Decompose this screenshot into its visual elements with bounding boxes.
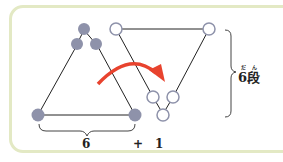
left-triangle-lines: [38, 30, 135, 115]
bottom-brace: [39, 124, 135, 136]
filled-dots: [32, 23, 142, 122]
bottom-label-right: 1: [155, 137, 163, 151]
rows-label-ruby: だん: [238, 64, 260, 70]
rows-label: 6段だん: [238, 64, 260, 86]
rows-label-text: 6段: [238, 70, 260, 85]
plus-sign: +: [133, 137, 143, 151]
arrowhead-icon: [149, 64, 165, 82]
bottom-label-left: 6: [82, 137, 90, 151]
rotate-arrow-icon: [98, 64, 156, 84]
right-brace: [225, 30, 236, 117]
